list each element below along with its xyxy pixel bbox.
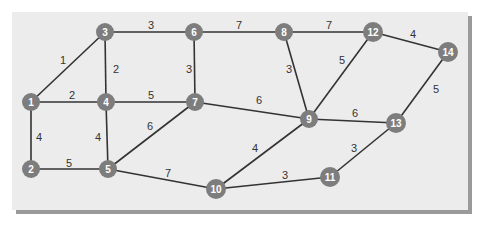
node-5: 5 [99, 160, 117, 178]
node-label: 12 [367, 27, 379, 38]
edge-weight-label: 2 [69, 89, 75, 101]
edge-weight-label: 6 [352, 107, 358, 119]
edge-weight-label: 7 [326, 19, 332, 31]
edge-11-13 [330, 123, 396, 177]
edge-weight-label: 4 [36, 131, 42, 143]
edge-weight-label: 3 [351, 142, 357, 154]
edge-weight-label: 7 [165, 167, 171, 179]
node-label: 13 [390, 118, 402, 129]
node-14: 14 [438, 42, 458, 62]
node-3: 3 [96, 23, 114, 41]
edge-7-9 [195, 102, 309, 119]
edge-weight-label: 6 [147, 120, 153, 132]
node-label: 9 [306, 114, 312, 125]
edge-9-10 [216, 119, 309, 189]
node-label: 2 [28, 164, 34, 175]
node-label: 5 [105, 164, 111, 175]
edge-5-7 [108, 102, 195, 169]
node-10: 10 [206, 179, 226, 199]
edge-weight-label: 5 [148, 89, 154, 101]
edge-weight-label: 5 [66, 157, 72, 169]
node-9: 9 [300, 110, 318, 128]
node-11: 11 [320, 167, 340, 187]
node-label: 8 [281, 27, 287, 38]
edge-weight-label: 3 [148, 19, 154, 31]
node-label: 3 [102, 27, 108, 38]
edge-weight-label: 3 [186, 63, 192, 75]
edge-weight-label: 4 [95, 131, 101, 143]
edge-4-5 [106, 102, 108, 169]
node-label: 7 [192, 97, 198, 108]
edge-weight-label: 5 [433, 83, 439, 95]
edge-10-11 [216, 177, 330, 189]
node-label: 10 [210, 184, 222, 195]
edge-5-10 [108, 169, 216, 189]
edge-3-4 [105, 32, 106, 102]
edge-6-7 [194, 32, 195, 102]
node-12: 12 [363, 22, 383, 42]
edge-13-14 [396, 52, 448, 123]
node-label: 11 [325, 172, 336, 183]
node-2: 2 [22, 160, 40, 178]
node-label: 14 [442, 47, 454, 58]
edge-weight-label: 5 [339, 54, 345, 66]
edge-9-12 [309, 32, 373, 119]
edge-weight-label: 3 [282, 169, 288, 181]
node-label: 4 [103, 97, 109, 108]
node-6: 6 [185, 23, 203, 41]
node-4: 4 [97, 93, 115, 111]
node-1: 1 [22, 93, 40, 111]
edge-weight-label: 2 [113, 63, 119, 75]
node-label: 1 [28, 97, 34, 108]
edge-8-9 [284, 32, 309, 119]
edge-weight-label: 4 [410, 28, 416, 40]
edge-weight-label: 1 [60, 54, 66, 66]
node-8: 8 [275, 23, 293, 41]
edge-weight-label: 6 [256, 94, 262, 106]
edge-weight-label: 7 [236, 19, 242, 31]
edges-layer [31, 32, 448, 189]
graph-diagram: 1245234567376375643345 12345678910111213… [0, 0, 485, 227]
node-label: 6 [191, 27, 197, 38]
edge-9-13 [309, 119, 396, 123]
edge-weight-label: 4 [252, 142, 258, 154]
node-7: 7 [186, 93, 204, 111]
node-13: 13 [386, 113, 406, 133]
edge-weights-layer: 1245234567376375643345 [36, 19, 439, 181]
edge-weight-label: 3 [286, 63, 292, 75]
